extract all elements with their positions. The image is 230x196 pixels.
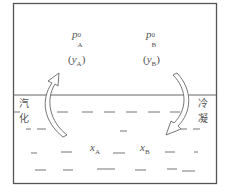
vapor-pressure-A-label: p0A xyxy=(72,29,85,40)
vaporization-label: 汽 化 xyxy=(18,96,30,126)
vaporization-char: 汽 xyxy=(18,96,30,111)
condensation-char: 冷 xyxy=(197,96,209,111)
liquid-mole-fraction-A-label: xA xyxy=(90,142,100,156)
condensation-label: 冷 凝 xyxy=(197,96,209,126)
vaporization-arrow-icon xyxy=(45,73,67,137)
diagram-canvas xyxy=(0,0,230,196)
vaporization-char: 化 xyxy=(18,111,30,126)
liquid-dashes xyxy=(14,112,200,171)
liquid-mole-fraction-B-label: xB xyxy=(140,142,150,156)
condensation-char: 凝 xyxy=(197,111,209,126)
vapor-mole-fraction-B-label: (yB) xyxy=(143,54,160,68)
vapor-mole-fraction-A-label: (yA) xyxy=(68,54,85,68)
condensation-arrow-icon xyxy=(166,73,189,135)
vapor-pressure-B-label: p0B xyxy=(146,29,159,40)
